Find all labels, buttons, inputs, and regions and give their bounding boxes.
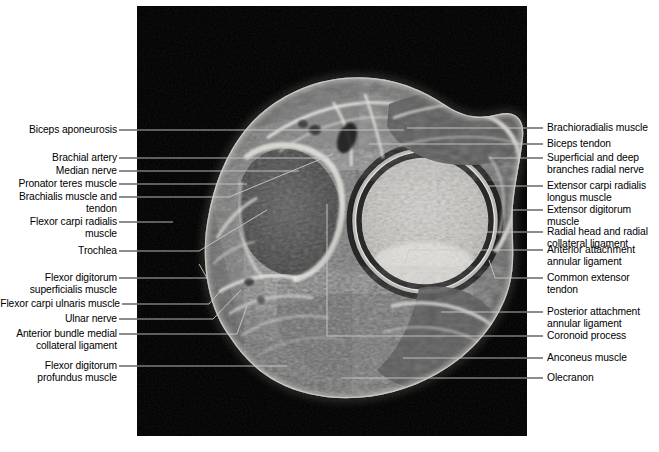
label-anconeus-muscle: Anconeus muscle bbox=[547, 352, 659, 364]
label-posterior-attachment-annular-ligament: Posterior attachment annular ligament bbox=[547, 306, 659, 330]
mri-image-panel bbox=[137, 6, 527, 436]
label-biceps-aponeurosis: Biceps aponeurosis bbox=[2, 124, 117, 136]
label-extensor-digitorum-muscle: Extensor digitorum muscle bbox=[547, 204, 659, 228]
radial-head bbox=[349, 145, 501, 297]
label-coronoid-process: Coronoid process bbox=[547, 330, 659, 342]
label-flexor-carpi-radialis-muscle: Flexor carpi radialis muscle bbox=[2, 216, 117, 240]
label-brachioradialis-muscle: Brachioradialis muscle bbox=[547, 122, 659, 134]
label-anterior-bundle-medial-collateral-ligament: Anterior bundle medial collateral ligame… bbox=[0, 328, 117, 352]
label-flexor-digitorum-profundus-muscle: Flexor digitorum profundus muscle bbox=[2, 360, 117, 384]
label-trochlea: Trochlea bbox=[2, 245, 117, 257]
label-brachial-artery: Brachial artery bbox=[2, 152, 117, 164]
figure-root: Biceps aponeurosis Brachial artery Media… bbox=[0, 0, 659, 452]
label-common-extensor-tendon: Common extensor tendon bbox=[547, 272, 659, 296]
label-biceps-tendon: Biceps tendon bbox=[547, 138, 659, 150]
label-flexor-carpi-ulnaris-muscle: Flexor carpi ulnaris muscle bbox=[0, 298, 120, 310]
label-superficial-and-deep-branches-radial-nerve: Superficial and deep branches radial ner… bbox=[547, 152, 659, 176]
label-flexor-digitorum-superficialis-muscle: Flexor digitorum superficialis muscle bbox=[2, 272, 117, 296]
label-ulnar-nerve: Ulnar nerve bbox=[2, 313, 117, 325]
label-median-nerve: Median nerve bbox=[2, 165, 117, 177]
label-extensor-carpi-radialis-longus-muscle: Extensor carpi radialis longus muscle bbox=[547, 180, 659, 204]
label-pronator-teres-muscle: Pronator teres muscle bbox=[2, 178, 117, 190]
mri-axial-elbow-image bbox=[137, 6, 527, 436]
label-olecranon: Olecranon bbox=[547, 372, 659, 384]
label-anterior-attachment-annular-ligament: Anterior attachment annular ligament bbox=[547, 244, 659, 268]
label-brachialis-muscle-and-tendon: Brachialis muscle and tendon bbox=[2, 191, 117, 215]
